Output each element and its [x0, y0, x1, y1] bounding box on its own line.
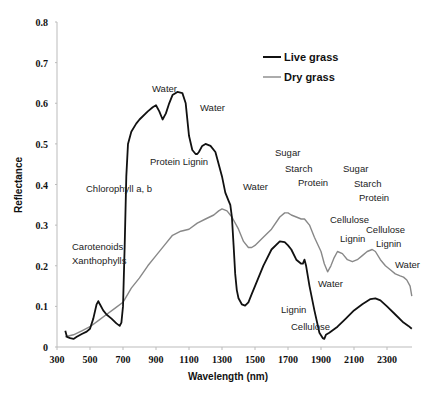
- annotation-label: Xanthophylls: [72, 255, 127, 266]
- legend-label: Live grass: [284, 51, 338, 63]
- x-tick-label: 1700: [278, 354, 298, 365]
- legend: Live grassDry grass: [263, 51, 338, 83]
- x-tick-label: 2100: [344, 354, 364, 365]
- y-tick-label: 0.8: [36, 17, 49, 28]
- y-tick-label: 0: [43, 342, 48, 353]
- annotation-label: Cellulose: [366, 224, 405, 235]
- annotation-label: Sugar: [275, 147, 300, 158]
- annotation-label: Water: [200, 102, 225, 113]
- annotation-label: Sugar: [343, 163, 368, 174]
- x-tick-label: 1900: [311, 354, 331, 365]
- x-tick-label: 1300: [212, 354, 232, 365]
- series-line-dry-grass: [65, 209, 412, 337]
- y-ticks: 00.10.20.30.40.50.60.70.8: [36, 17, 58, 353]
- y-tick-label: 0.3: [36, 220, 49, 231]
- x-tick-label: 700: [116, 354, 131, 365]
- annotation-label: Protein: [359, 192, 389, 203]
- annotation-label: Starch: [354, 178, 381, 189]
- annotation-label: Water: [318, 278, 343, 289]
- y-tick-label: 0.6: [36, 98, 49, 109]
- x-tick-label: 2300: [377, 354, 397, 365]
- annotation-label: Cellulose: [330, 214, 369, 225]
- x-tick-label: 1500: [245, 354, 265, 365]
- annotation-label: Lignin: [281, 304, 306, 315]
- x-axis-title: Wavelength (nm): [188, 371, 268, 382]
- annotation-label: Protein: [298, 177, 328, 188]
- annotation-label: Protein Lignin: [150, 156, 208, 167]
- annotation-label: Chlorophyll a, b: [86, 183, 152, 194]
- annotation-label: Lignin: [340, 233, 365, 244]
- x-tick-label: 1100: [179, 354, 198, 365]
- y-tick-label: 0.5: [36, 139, 49, 150]
- y-tick-label: 0.1: [36, 301, 49, 312]
- y-tick-label: 0.2: [36, 261, 49, 272]
- x-ticks: 3005007009001100130015001700190021002300: [50, 347, 398, 365]
- legend-label: Dry grass: [284, 71, 335, 83]
- y-tick-label: 0.7: [36, 58, 49, 69]
- x-tick-label: 500: [83, 354, 98, 365]
- annotation-label: Water: [243, 181, 268, 192]
- annotation-label: Carotenoids: [72, 241, 123, 252]
- x-tick-label: 300: [50, 354, 65, 365]
- annotation-label: Cellulose: [291, 321, 330, 332]
- y-tick-label: 0.4: [36, 180, 49, 191]
- y-axis-title: Reflectance: [13, 156, 24, 213]
- annotation-label: Water: [152, 83, 177, 94]
- annotation-label: Water: [395, 259, 420, 270]
- annotation-label: Starch: [285, 163, 312, 174]
- annotation-label: Lignin: [376, 238, 401, 249]
- x-tick-label: 900: [149, 354, 164, 365]
- reflectance-chart: 00.10.20.30.40.50.60.70.8 30050070090011…: [0, 0, 437, 396]
